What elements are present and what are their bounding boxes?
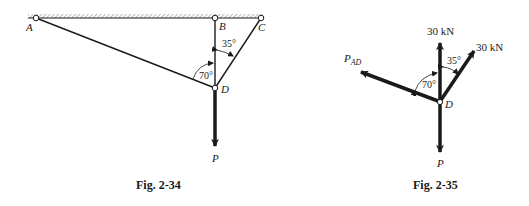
figure-2-35: 30 kN 30 kN PAD 70° 35° D P Fig. 2-35: [343, 25, 503, 192]
label-c: C: [258, 21, 266, 33]
caption-fig-2-35: Fig. 2-35: [413, 178, 458, 192]
angle-label-35: 35°: [222, 38, 236, 49]
label-pad: PAD: [343, 52, 362, 67]
angle-arc-35: [443, 67, 458, 74]
label-b: B: [219, 20, 226, 32]
angle-label-70: 70°: [422, 79, 436, 90]
label-a: A: [25, 21, 33, 33]
label-d: D: [444, 98, 453, 110]
label-load-p: P: [436, 157, 444, 169]
pin-b-icon: [212, 15, 218, 21]
label-d: D: [220, 83, 229, 95]
member-ad: [36, 18, 215, 88]
label-load-p: P: [211, 152, 219, 164]
caption-fig-2-34: Fig. 2-34: [136, 178, 181, 192]
angle-label-70: 70°: [199, 70, 213, 81]
pin-d-icon: [212, 85, 218, 91]
figures-canvas: A B C D 70° 35° P Fig. 2-34 30 kN 30 kN …: [0, 0, 529, 206]
label-vertical-30kn: 30 kN: [427, 25, 454, 37]
angle-arc-35: [217, 50, 233, 56]
joint-d-icon: [437, 99, 442, 104]
pin-c-icon: [258, 15, 264, 21]
angle-label-35: 35°: [447, 55, 461, 66]
ceiling-support: [28, 14, 264, 18]
pin-a-icon: [33, 15, 39, 21]
label-inclined-30kn: 30 kN: [476, 41, 503, 53]
figure-2-34: A B C D 70° 35° P Fig. 2-34: [25, 14, 266, 192]
